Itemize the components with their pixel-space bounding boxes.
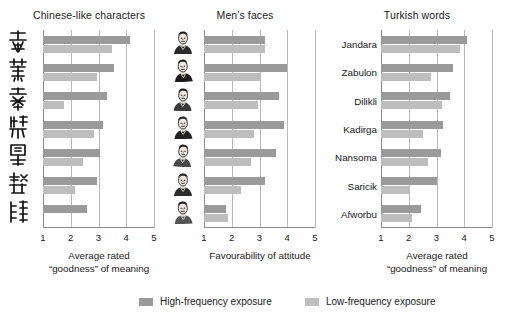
chart-legend: High-frequency exposure Low-frequency ex… — [0, 296, 511, 314]
bar-low-frequency — [204, 73, 260, 81]
x-axis-label-faces-line1: Favourability of attitude — [209, 250, 310, 261]
x-axis-label-chinese-line2: “goodness” of meaning — [49, 263, 149, 274]
bar-high-frequency — [381, 177, 437, 185]
chinese-like-character-icon — [8, 200, 30, 228]
x-tick-4: 4 — [124, 232, 129, 243]
bar-low-frequency — [381, 101, 442, 109]
bar-high-frequency — [204, 177, 265, 185]
mens-face-label-column — [172, 30, 202, 228]
legend-swatch-low-frequency-icon — [305, 298, 319, 306]
plot-area-faces — [204, 30, 315, 228]
plot-area-chinese — [43, 30, 154, 228]
bar-high-frequency — [43, 177, 97, 185]
legend-label-low-frequency: Low-frequency exposure — [326, 296, 436, 307]
category-label-nansoma: Nansoma — [335, 152, 377, 163]
bar-low-frequency — [381, 130, 423, 138]
bar-high-frequency — [43, 205, 87, 213]
legend-item-low-frequency: Low-frequency exposure — [305, 296, 436, 307]
panel-title-turkish: Turkish words — [342, 9, 492, 21]
x-axis-label-faces: Favourability of attitude — [175, 250, 345, 263]
chinese-character-label-column — [8, 30, 38, 228]
x-tick-5: 5 — [312, 232, 317, 243]
chinese-like-character-icon — [8, 115, 30, 143]
x-axis-label-turkish-line1: Average rated — [406, 250, 467, 261]
x-axis-ticks-faces: 12345 — [204, 232, 315, 246]
mans-face-icon — [172, 172, 194, 200]
bar-group-faces — [204, 30, 315, 228]
panel-title-chinese: Chinese-like characters — [8, 9, 170, 21]
x-tick-4: 4 — [285, 232, 290, 243]
category-label-jandara: Jandara — [342, 39, 377, 50]
chinese-like-character-icon — [8, 58, 30, 86]
bar-high-frequency — [381, 149, 441, 157]
bar-high-frequency — [43, 92, 107, 100]
x-axis-ticks-chinese: 12345 — [43, 232, 154, 246]
plot-area-turkish — [381, 30, 492, 228]
bar-low-frequency — [204, 214, 228, 222]
bar-high-frequency — [204, 149, 276, 157]
gridline-5 — [315, 30, 316, 228]
gridline-5 — [154, 30, 155, 228]
x-tick-2: 2 — [68, 232, 73, 243]
bar-high-frequency — [381, 36, 467, 44]
bar-low-frequency — [43, 158, 83, 166]
figure-mere-exposure-effect: Chinese-like characters 12345 Average ra… — [0, 0, 511, 322]
x-tick-3: 3 — [257, 232, 262, 243]
bar-high-frequency — [204, 64, 287, 72]
turkish-word-label-column: JandaraZabulonDilikliKadirgaNansomaSaric… — [325, 30, 377, 228]
x-tick-3: 3 — [434, 232, 439, 243]
axis-baseline-faces — [204, 227, 315, 228]
bar-low-frequency — [43, 130, 94, 138]
bar-high-frequency — [381, 64, 453, 72]
mans-face-icon — [172, 87, 194, 115]
chinese-like-character-icon — [8, 30, 30, 58]
bar-high-frequency — [204, 36, 265, 44]
bar-low-frequency — [43, 186, 75, 194]
x-axis-label-turkish: Average rated “goodness” of meaning — [346, 250, 511, 275]
bar-low-frequency — [43, 45, 112, 53]
bar-group-turkish — [381, 30, 492, 228]
bar-low-frequency — [381, 186, 409, 194]
category-label-afworbu: Afworbu — [341, 208, 377, 219]
bar-high-frequency — [381, 205, 421, 213]
bar-low-frequency — [204, 101, 258, 109]
bar-high-frequency — [381, 92, 450, 100]
legend-label-high-frequency: High-frequency exposure — [160, 296, 272, 307]
x-tick-1: 1 — [201, 232, 206, 243]
x-tick-1: 1 — [378, 232, 383, 243]
bar-low-frequency — [381, 158, 428, 166]
bar-low-frequency — [43, 73, 97, 81]
x-tick-2: 2 — [406, 232, 411, 243]
mans-face-icon — [172, 115, 194, 143]
bar-high-frequency — [43, 121, 103, 129]
bar-high-frequency — [381, 121, 443, 129]
chinese-like-character-icon — [8, 143, 30, 171]
bar-group-chinese — [43, 30, 154, 228]
bar-low-frequency — [204, 45, 265, 53]
category-label-dilikli: Dilikli — [354, 95, 377, 106]
bar-high-frequency — [204, 205, 226, 213]
x-tick-1: 1 — [40, 232, 45, 243]
bar-low-frequency — [381, 73, 431, 81]
category-label-zabulon: Zabulon — [342, 67, 377, 78]
bar-high-frequency — [43, 64, 114, 72]
bar-low-frequency — [204, 158, 251, 166]
x-tick-3: 3 — [96, 232, 101, 243]
mans-face-icon — [172, 143, 194, 171]
x-axis-label-chinese: Average rated “goodness” of meaning — [8, 250, 190, 275]
legend-swatch-high-frequency-icon — [139, 298, 153, 306]
axis-baseline-chinese — [43, 227, 154, 228]
mans-face-icon — [172, 58, 194, 86]
bar-high-frequency — [43, 149, 100, 157]
bar-low-frequency — [204, 130, 254, 138]
x-axis-label-turkish-line2: “goodness” of meaning — [387, 263, 487, 274]
mans-face-icon — [172, 30, 194, 58]
gridline-5 — [492, 30, 493, 228]
category-label-saricik: Saricik — [348, 180, 377, 191]
mans-face-icon — [172, 200, 194, 228]
axis-baseline-turkish — [381, 227, 492, 228]
bar-low-frequency — [381, 214, 412, 222]
x-tick-5: 5 — [151, 232, 156, 243]
x-axis-label-chinese-line1: Average rated — [68, 250, 129, 261]
x-tick-2: 2 — [229, 232, 234, 243]
